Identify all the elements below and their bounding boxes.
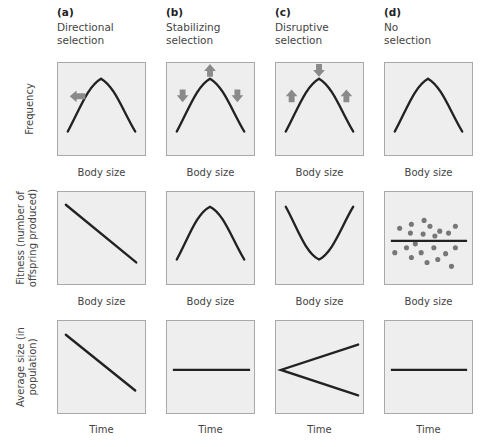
scatter-dots bbox=[392, 218, 458, 269]
panel-fitness-directional bbox=[57, 191, 146, 285]
column-title-line1: Stabilizing bbox=[166, 21, 220, 34]
u-curve-icon bbox=[276, 192, 363, 284]
panel-fitness-none bbox=[384, 191, 473, 285]
x-axis-label: Body size bbox=[57, 167, 146, 178]
panel-average-directional bbox=[57, 320, 146, 414]
panel-frequency-none bbox=[384, 62, 473, 156]
x-axis-label: Time bbox=[384, 424, 473, 435]
column-title-line1: Directional bbox=[57, 21, 114, 34]
column-heading-a: (a) Directional selection bbox=[57, 6, 114, 47]
row-label-frequency: Frequency bbox=[24, 69, 36, 149]
arrow-down-icon bbox=[232, 89, 244, 102]
x-axis-label: Time bbox=[275, 424, 364, 435]
bell-curve-icon bbox=[276, 63, 363, 155]
arrow-down-icon bbox=[177, 89, 189, 102]
x-axis-label: Body size bbox=[166, 296, 255, 307]
panel-fitness-disruptive bbox=[275, 191, 364, 285]
column-title-line1: Disruptive bbox=[275, 21, 329, 34]
column-title-line2: selection bbox=[57, 34, 114, 47]
flat-line-icon bbox=[385, 321, 472, 413]
panel-fitness-stabilizing bbox=[166, 191, 255, 285]
column-title-line2: selection bbox=[275, 34, 329, 47]
panel-frequency-directional bbox=[57, 62, 146, 156]
flat-line-icon bbox=[167, 321, 254, 413]
column-letter: (a) bbox=[57, 6, 114, 19]
bell-curve-icon bbox=[58, 63, 145, 155]
x-axis-label: Body size bbox=[275, 296, 364, 307]
x-axis-label: Body size bbox=[166, 167, 255, 178]
panel-average-disruptive bbox=[275, 320, 364, 414]
ylabel-line2: population) bbox=[27, 320, 39, 414]
x-axis-label: Body size bbox=[57, 296, 146, 307]
bell-curve-icon bbox=[167, 192, 254, 284]
bell-curve-icon bbox=[385, 63, 472, 155]
x-axis-label: Body size bbox=[384, 167, 473, 178]
column-letter: (b) bbox=[166, 6, 220, 19]
ylabel-line1: Average size (in bbox=[15, 320, 27, 414]
panel-frequency-disruptive bbox=[275, 62, 364, 156]
column-title-line2: selection bbox=[384, 34, 431, 47]
bell-curve-icon bbox=[167, 63, 254, 155]
scatter-flat-line-icon bbox=[385, 192, 472, 284]
decreasing-line-icon bbox=[58, 192, 145, 284]
column-heading-d: (d) No selection bbox=[384, 6, 431, 47]
x-axis-label: Body size bbox=[275, 167, 364, 178]
column-letter: (c) bbox=[275, 6, 329, 19]
column-heading-c: (c) Disruptive selection bbox=[275, 6, 329, 47]
ylabel-line1: Frequency bbox=[24, 83, 35, 135]
column-letter: (d) bbox=[384, 6, 431, 19]
x-axis-label: Body size bbox=[384, 296, 473, 307]
column-title-line2: selection bbox=[166, 34, 220, 47]
panel-average-stabilizing bbox=[166, 320, 255, 414]
panel-average-none bbox=[384, 320, 473, 414]
column-title-line1: No bbox=[384, 21, 431, 34]
row-label-average-size: Average size (in population) bbox=[15, 320, 39, 414]
arrow-up-icon bbox=[204, 64, 216, 77]
ylabel-line1: Fitness (number of bbox=[15, 188, 27, 288]
diverging-lines-icon bbox=[276, 321, 363, 413]
decreasing-line-icon bbox=[58, 321, 145, 413]
arrow-up-icon bbox=[286, 89, 298, 102]
column-heading-b: (b) Stabilizing selection bbox=[166, 6, 220, 47]
row-label-fitness: Fitness (number of offspring produced) bbox=[15, 188, 39, 288]
panel-frequency-stabilizing bbox=[166, 62, 255, 156]
arrow-down-icon bbox=[313, 64, 325, 77]
arrow-up-icon bbox=[341, 89, 353, 102]
x-axis-label: Time bbox=[57, 424, 146, 435]
x-axis-label: Time bbox=[166, 424, 255, 435]
ylabel-line2: offspring produced) bbox=[27, 188, 39, 288]
